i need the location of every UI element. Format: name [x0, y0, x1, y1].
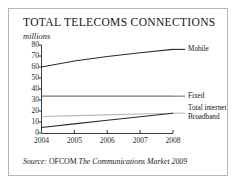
x-tick-label: 2005	[61, 136, 87, 145]
series-label-broadband: Broadband	[188, 113, 220, 121]
y-tick-label: 30	[23, 96, 39, 104]
chart-title: TOTAL TELECOMS CONNECTIONS	[23, 16, 216, 28]
x-tick-label: 2006	[94, 136, 120, 145]
y-tick-label: 60	[23, 63, 39, 71]
y-tick-label: 80	[23, 41, 39, 49]
x-tick-label: 2004	[29, 136, 55, 145]
source-publication: The Communications Market 2009	[79, 157, 188, 166]
source-prefix: Source:	[23, 157, 47, 166]
y-tick-label: 50	[23, 74, 39, 82]
y-tick-label: 20	[23, 107, 39, 115]
series-line-mobile	[42, 49, 174, 67]
series-label-total-internet: Total internet	[188, 104, 226, 112]
series-label-fixed: Fixed	[188, 92, 204, 100]
chart-figure: TOTAL TELECOMS CONNECTIONS millions 0102…	[8, 8, 228, 176]
series-lines	[42, 49, 174, 127]
y-tick-label: 70	[23, 52, 39, 60]
x-tick-label: 2007	[127, 136, 153, 145]
series-label-mobile: Mobile	[188, 45, 209, 53]
y-tick-label: 10	[23, 118, 39, 126]
plot-area: 01020304050607080 20042005200620072008 M…	[23, 41, 219, 145]
source-note: Source: OFCOM The Communications Market …	[23, 157, 187, 166]
x-tick-label: 2008	[160, 136, 186, 145]
x-axis-ticks	[42, 130, 174, 133]
y-tick-label: 40	[23, 85, 39, 93]
label-leader-lines	[173, 49, 185, 113]
source-organisation: OFCOM	[49, 157, 77, 166]
